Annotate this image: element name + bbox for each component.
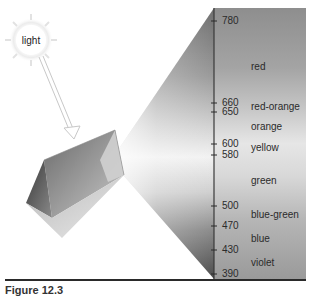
light-ray-arrow	[39, 56, 80, 139]
tick-label-500: 500	[222, 201, 239, 211]
tick-label-650: 650	[222, 107, 239, 117]
prism-icon	[26, 130, 124, 238]
caption-rule	[5, 279, 306, 281]
band-label-green: green	[251, 176, 277, 186]
band-label-violet: violet	[251, 258, 274, 268]
light-label: light	[16, 35, 46, 46]
tick-label-580: 580	[222, 150, 239, 160]
dispersion-fan	[118, 8, 214, 279]
tick-label-780: 780	[222, 16, 239, 26]
band-label-yellow: yellow	[251, 143, 279, 153]
tick-label-600: 600	[222, 139, 239, 149]
band-label-blue: blue	[251, 234, 270, 244]
band-label-orange: orange	[251, 122, 282, 132]
tick-label-430: 430	[222, 245, 239, 255]
figure-caption: Figure 12.3	[5, 284, 63, 296]
band-label-blue-green: blue-green	[251, 210, 299, 220]
band-label-red-orange: red-orange	[251, 102, 300, 112]
band-label-red: red	[251, 62, 265, 72]
tick-label-470: 470	[222, 221, 239, 231]
tick-label-390: 390	[222, 269, 239, 279]
